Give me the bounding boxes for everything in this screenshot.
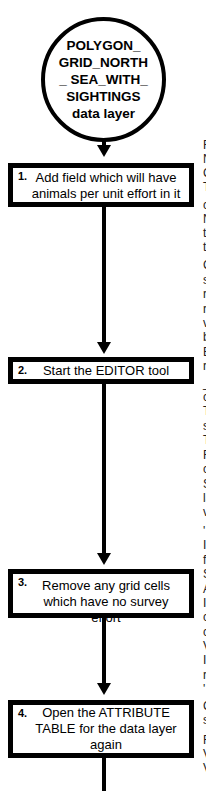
step-number: 4. <box>18 707 27 719</box>
text-fragment: T <box>203 180 206 195</box>
text-fragment: S <box>203 477 206 492</box>
step-number: 1. <box>18 170 27 182</box>
step-text: Start the EDITOR tool <box>13 362 189 379</box>
text-fragment: v <box>203 505 206 520</box>
step-box-4: 4. Open the ATTRIBUTE TABLE for the data… <box>8 700 194 758</box>
arrow-down-icon <box>97 145 111 157</box>
text-fragment: V <box>203 639 206 654</box>
step-number: 2. <box>18 364 27 376</box>
text-fragment: _ <box>203 376 206 391</box>
text-fragment: b <box>203 330 206 345</box>
step-box-2: 2. Start the EDITOR tool <box>8 357 194 384</box>
step-box-1: 1. Add field which will have animals per… <box>8 163 194 207</box>
arrow-down-icon <box>97 683 111 695</box>
text-fragment: la <box>203 491 206 506</box>
text-fragment: s <box>203 713 206 728</box>
text-fragment: I <box>203 653 206 668</box>
text-fragment: V <box>203 761 206 776</box>
text-fragment: N <box>203 212 206 227</box>
step-box-3: 3. Remove any grid cells which have no s… <box>8 569 194 618</box>
text-fragment: T <box>203 433 206 448</box>
connector-line <box>102 758 106 791</box>
text-fragment: f <box>203 553 206 568</box>
text-fragment: F <box>203 138 206 153</box>
text-fragment: T <box>203 404 206 419</box>
text-fragment: V <box>203 747 206 762</box>
text-fragment: c <box>203 625 206 640</box>
text-fragment: I <box>203 596 206 611</box>
text-fragment: r <box>203 302 206 317</box>
text-fragment: E <box>203 345 206 360</box>
text-fragment: F <box>203 448 206 463</box>
text-fragment: s <box>203 419 206 434</box>
step-number: 3. <box>18 576 27 588</box>
text-fragment: c <box>203 610 206 625</box>
step-text: Open the ATTRIBUTE TABLE for the data la… <box>13 705 189 753</box>
text-fragment: t <box>203 226 206 241</box>
connector-line <box>102 384 106 554</box>
text-fragment: t <box>203 240 206 255</box>
text-fragment: c <box>203 462 206 477</box>
text-fragment: v <box>203 316 206 331</box>
step-text: Remove any grid cells which have no surv… <box>13 574 189 626</box>
step-text: Add field which will have animals per un… <box>13 168 189 202</box>
start-node-data-layer: POLYGON_ GRID_NORTH_ SEA_WITH_ SIGHTINGS… <box>41 17 166 142</box>
text-fragment: I <box>203 538 206 553</box>
text-fragment: ' <box>203 524 205 539</box>
connector-line <box>102 618 106 684</box>
connector-line <box>102 207 106 343</box>
text-fragment: r <box>203 359 206 374</box>
text-fragment: C <box>203 699 206 714</box>
text-fragment: A <box>203 582 206 597</box>
text-fragment: r <box>203 287 206 302</box>
text-fragment: c <box>203 390 206 405</box>
arrow-down-icon <box>97 342 111 354</box>
text-fragment: c <box>203 198 206 213</box>
text-fragment: N <box>203 152 206 167</box>
text-fragment: s <box>203 273 206 288</box>
text-fragment: F <box>203 733 206 748</box>
arrow-down-icon <box>97 553 111 565</box>
text-fragment: r <box>203 668 206 683</box>
start-node-label: POLYGON_ GRID_NORTH_ SEA_WITH_ SIGHTINGS… <box>58 37 150 122</box>
text-fragment: C <box>203 166 206 181</box>
text-fragment: ' <box>203 682 205 697</box>
text-fragment: S <box>203 567 206 582</box>
text-fragment: C <box>203 258 206 273</box>
